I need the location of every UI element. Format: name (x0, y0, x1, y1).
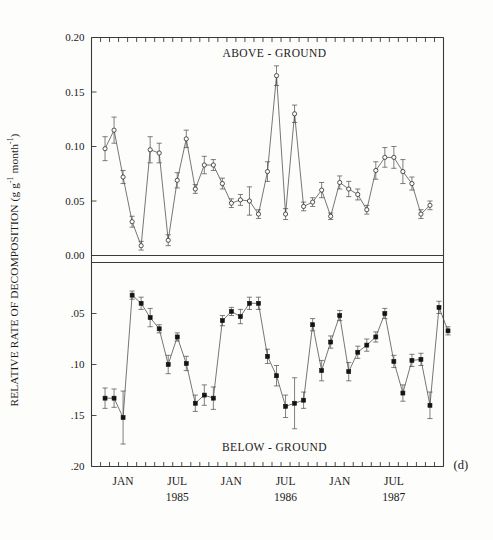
x-tick-label: JAN (113, 475, 135, 487)
y-tick-label-lower: .05 (71, 307, 85, 319)
data-point-marker (166, 238, 170, 242)
data-point-marker (419, 357, 423, 361)
data-point-marker (401, 391, 405, 395)
data-point-marker (274, 74, 278, 78)
data-point-marker (292, 112, 296, 116)
data-point-marker (193, 187, 197, 191)
data-point-marker (112, 396, 116, 400)
data-point-marker (148, 148, 152, 152)
above-ground-panel-title: ABOVE - GROUND (223, 47, 327, 59)
data-point-marker (229, 201, 233, 205)
data-point-marker (374, 335, 378, 339)
data-point-marker (347, 187, 351, 191)
data-point-marker (256, 212, 260, 216)
data-point-marker (103, 147, 107, 151)
data-point-marker (121, 416, 125, 420)
data-point-marker (157, 151, 161, 155)
data-point-marker (193, 401, 197, 405)
data-point-marker (293, 401, 297, 405)
x-tick-label: JUL (276, 475, 296, 487)
y-tick-label-lower: .20 (71, 460, 85, 472)
y-tick-label-lower: .10 (71, 358, 85, 370)
data-point-marker (365, 343, 369, 347)
data-point-marker (428, 403, 432, 407)
data-point-marker (311, 200, 315, 204)
series-above-ground (102, 66, 432, 250)
data-point-marker (139, 301, 143, 305)
data-point-marker (392, 359, 396, 363)
data-point-marker (338, 314, 342, 318)
data-point-marker (247, 199, 251, 203)
data-point-marker (283, 212, 287, 216)
data-point-marker (401, 169, 405, 173)
data-point-marker (157, 327, 161, 331)
data-point-marker (428, 203, 432, 207)
data-point-marker (175, 335, 179, 339)
data-point-marker (338, 180, 342, 184)
data-point-marker (275, 374, 279, 378)
data-point-marker (148, 316, 152, 320)
data-point-marker (320, 188, 324, 192)
data-point-marker (220, 319, 224, 323)
data-point-marker (446, 329, 450, 333)
series-polyline (105, 76, 430, 246)
data-point-marker (202, 393, 206, 397)
data-point-marker (311, 323, 315, 327)
series-polyline (105, 295, 448, 417)
data-point-marker (302, 204, 306, 208)
data-point-marker (320, 369, 324, 373)
data-point-marker (121, 175, 125, 179)
data-point-marker (184, 361, 188, 365)
data-point-marker (265, 169, 269, 173)
y-tick-label-upper: 0.10 (65, 140, 85, 152)
x-tick-label: JAN (329, 475, 351, 487)
data-point-marker (356, 350, 360, 354)
y-tick-label-lower: .15 (71, 409, 85, 421)
x-tick-label: JUL (167, 475, 187, 487)
data-point-marker (347, 370, 351, 374)
x-tick-label: JAN (221, 475, 243, 487)
y-tick-label-upper: 0.15 (65, 86, 85, 98)
chart-canvas: 0.000.050.100.150.20.05.10.15.20JANJULJA… (0, 0, 493, 540)
y-tick-label-upper: 0.20 (65, 31, 85, 43)
data-point-marker (256, 301, 260, 305)
data-point-marker (202, 163, 206, 167)
data-point-marker (356, 192, 360, 196)
data-point-marker (211, 396, 215, 400)
figure-panel-label: (d) (454, 458, 469, 472)
data-point-marker (419, 212, 423, 216)
below-ground-panel-title: BELOW - GROUND (222, 441, 327, 453)
data-point-marker (392, 155, 396, 159)
data-point-marker (130, 293, 134, 297)
x-year-label: 1986 (274, 491, 297, 503)
data-point-marker (365, 208, 369, 212)
decomposition-rate-figure: RELATIVE RATE OF DECOMPOSITION (g g-1 mo… (0, 0, 493, 540)
data-point-marker (383, 312, 387, 316)
data-point-marker (229, 309, 233, 313)
data-point-marker (211, 163, 215, 167)
data-point-marker (410, 181, 414, 185)
data-point-marker (175, 178, 179, 182)
data-point-marker (284, 404, 288, 408)
data-point-marker (130, 220, 134, 224)
data-point-marker (302, 398, 306, 402)
data-point-marker (112, 128, 116, 132)
data-point-marker (410, 358, 414, 362)
y-tick-label-upper: 0.05 (65, 195, 85, 207)
x-year-label: 1987 (382, 491, 405, 503)
data-point-marker (329, 214, 333, 218)
data-point-marker (184, 137, 188, 141)
data-point-marker (166, 363, 170, 367)
data-point-marker (238, 315, 242, 319)
data-point-marker (103, 396, 107, 400)
data-point-marker (238, 198, 242, 202)
x-year-label: 1985 (166, 491, 189, 503)
data-point-marker (247, 301, 251, 305)
data-point-marker (374, 168, 378, 172)
data-point-marker (329, 340, 333, 344)
data-point-marker (139, 244, 143, 248)
x-tick-label: JUL (384, 475, 404, 487)
data-point-marker (383, 155, 387, 159)
series-below-ground (102, 291, 450, 444)
data-point-marker (437, 305, 441, 309)
